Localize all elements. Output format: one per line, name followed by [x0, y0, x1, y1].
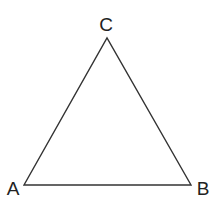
triangle-diagram: A B C: [0, 0, 219, 211]
vertex-label-b: B: [197, 178, 210, 199]
vertex-label-a: A: [7, 178, 20, 199]
vertex-label-c: C: [99, 14, 113, 35]
triangle-abc: [24, 38, 191, 185]
